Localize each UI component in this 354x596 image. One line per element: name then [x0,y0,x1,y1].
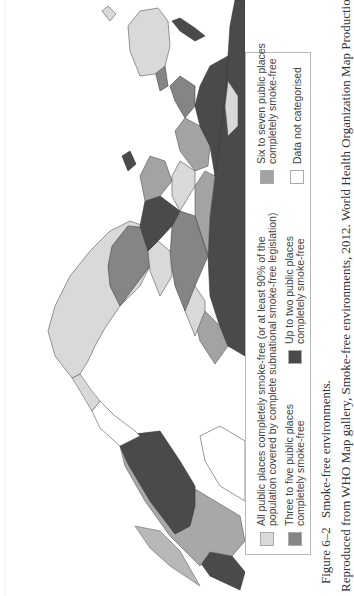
figure-title-text: Smoke-free environments. [318,380,333,518]
map-region-mexico [92,401,140,446]
map-region-alaska [200,552,245,590]
map-region-southern-africa [140,156,172,201]
map-region-west-africa [148,241,172,296]
legend-label: completely smoke-free [294,420,306,526]
map-region-australia [128,8,170,76]
figure: All public places completely smoke-free … [0,0,354,596]
legend-label: population covered by complete subnation… [266,213,278,526]
world-map [0,0,245,596]
map-region-madagascar [122,151,136,171]
figure-number: Figure 6–2 [318,527,333,584]
legend-swatch-medium-light [260,170,274,184]
map-region-southeast-asia [170,76,195,118]
legend-item-not-categorised: Data not categorised [290,67,304,184]
map-region-central-america [72,374,100,411]
legend-item-three-to-five: Three to five public places completely s… [284,404,306,546]
legend-item-up-to-two: Up to two public places completely smoke… [284,236,306,364]
map-region-middle-east [172,161,195,211]
legend-label: Data not categorised [292,67,303,164]
figure-caption: Figure 6–2 Smoke-free environments. Repr… [318,0,354,584]
figure-title: Figure 6–2 Smoke-free environments. [318,0,334,584]
legend-swatch-dark [288,350,302,364]
map-region-new-zealand [102,6,116,21]
map-region-greenland [200,426,245,501]
legend-item-all-smoke-free: All public places completely smoke-free … [256,213,278,546]
legend-swatch-white [290,170,304,184]
map-legend: All public places completely smoke-free … [245,52,311,555]
legend-label: completely smoke-free [294,238,306,344]
legend-swatch-medium [288,532,302,546]
map-region-japan [172,18,205,41]
figure-credit: Reproduced from WHO Map gallery, Smoke-f… [337,0,354,592]
legend-item-six-to-seven: Six to seven public places completely sm… [256,43,278,184]
legend-swatch-light [260,532,274,546]
legend-label: completely smoke-free [266,58,278,164]
